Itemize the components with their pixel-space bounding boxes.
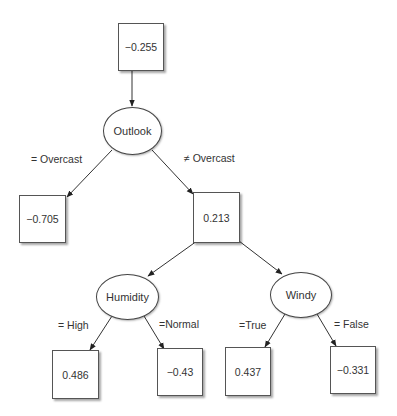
true-leaf-box: 0.437	[225, 347, 271, 396]
false-leaf-box: −0.331	[330, 346, 376, 394]
outlook-node: Outlook	[103, 107, 162, 155]
edge-label-neq-overcast: ≠ Overcast	[184, 152, 235, 164]
edge-label-eq-high: = High	[58, 319, 89, 331]
overcast-leaf-label: −0.705	[26, 213, 58, 225]
root-value-box: −0.255	[118, 23, 164, 71]
not-overcast-value-box: 0.213	[193, 192, 240, 243]
humidity-label: Humidity	[106, 291, 149, 303]
high-leaf-box: 0.486	[52, 350, 99, 399]
not-overcast-value-label: 0.213	[203, 212, 229, 224]
windy-label: Windy	[286, 289, 317, 301]
high-leaf-label: 0.486	[62, 369, 88, 381]
edge-humidity-to-high	[90, 316, 112, 350]
humidity-node: Humidity	[96, 274, 159, 320]
root-value-label: −0.255	[125, 41, 157, 53]
edge-label-eq-overcast: = Overcast	[31, 153, 82, 165]
edge-label-eq-true: =True	[239, 319, 266, 331]
edge-box-to-humidity	[148, 241, 197, 276]
overcast-leaf-box: −0.705	[19, 195, 66, 243]
outlook-label: Outlook	[114, 125, 152, 137]
edge-label-eq-false: = False	[334, 318, 369, 330]
false-leaf-label: −0.331	[337, 364, 369, 376]
normal-leaf-label: −0.43	[167, 366, 194, 378]
true-leaf-label: 0.437	[235, 366, 261, 378]
edge-label-eq-normal: =Normal	[159, 318, 199, 330]
edge-windy-to-true	[265, 314, 285, 347]
normal-leaf-box: −0.43	[157, 348, 203, 396]
edge-box-to-windy	[239, 241, 282, 274]
windy-node: Windy	[270, 272, 332, 318]
